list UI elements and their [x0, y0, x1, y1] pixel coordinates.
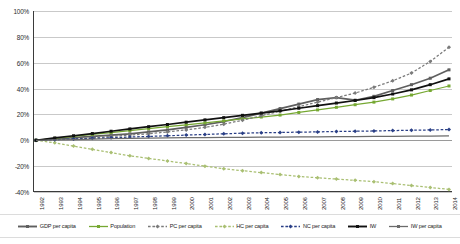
- legend-item-label: NC per capita: [303, 223, 335, 229]
- x-axis-tick-label: 2013: [432, 197, 439, 210]
- x-axis-tick-label: 1999: [170, 197, 177, 210]
- legend-swatch-icon: [148, 223, 167, 230]
- x-axis-tick-label: 2001: [207, 197, 214, 210]
- x-axis-tick-label: 1993: [57, 197, 64, 210]
- x-axis-tick-label: 2008: [339, 197, 346, 210]
- legend-swatch-icon: [89, 223, 108, 230]
- x-axis-tick-label: 1995: [95, 197, 102, 210]
- legend-item-gdp-per-capita[interactable]: GDP per capita: [18, 223, 76, 230]
- x-axis-tick-label: 2002: [226, 197, 233, 210]
- legend-item-iw[interactable]: IW: [348, 223, 376, 230]
- x-axis-tick-label: 1992: [38, 197, 45, 210]
- x-axis-tick-label: 1998: [151, 197, 158, 210]
- x-axis-tick-label: 2009: [357, 197, 364, 210]
- x-axis-tick-label: 2003: [245, 197, 252, 210]
- x-axis-tick-label: 1996: [113, 197, 120, 210]
- legend-item-label: HC per capita: [236, 223, 268, 229]
- x-axis-tick-label: 2012: [414, 197, 421, 210]
- legend-swatch-icon: [281, 223, 300, 230]
- legend-item-nc-per-capita[interactable]: NC per capita: [281, 223, 335, 230]
- x-axis-tick-label: 2011: [395, 198, 402, 210]
- legend-item-pc-per-capita[interactable]: PC per capita: [148, 223, 201, 230]
- legend-item-label: PC per capita: [170, 223, 202, 229]
- legend-item-label: Population: [110, 223, 135, 229]
- legend-item-label: GDP per capita: [40, 223, 76, 229]
- legend-swatch-icon: [215, 223, 234, 230]
- legend-swatch-icon: [348, 223, 367, 230]
- legend-swatch-icon: [389, 223, 408, 230]
- x-axis-tick-label: 2014: [451, 197, 458, 210]
- chart-container: 100%80%60%40%20%0%-20%-40% 1992199319941…: [0, 0, 460, 244]
- x-axis-tick-label: 2010: [376, 197, 383, 210]
- legend-swatch-icon: [18, 223, 37, 230]
- legend-item-population[interactable]: Population: [89, 223, 135, 230]
- x-axis-tick-label: 2005: [282, 197, 289, 210]
- chart-legend: GDP per capitaPopulationPC per capitaHC …: [0, 214, 460, 238]
- legend-item-iw-per-capita[interactable]: IW per capita: [389, 223, 442, 230]
- legend-item-label: IW: [370, 223, 377, 229]
- legend-item-hc-per-capita[interactable]: HC per capita: [215, 223, 269, 230]
- x-axis-tick-label: 1997: [132, 197, 139, 210]
- x-axis: 1992199319941995199619971998199920002001…: [0, 0, 460, 244]
- x-axis-tick-label: 1994: [76, 197, 83, 210]
- x-axis-tick-label: 2006: [301, 197, 308, 210]
- x-axis-tick-label: 2000: [188, 197, 195, 210]
- legend-item-label: IW per capita: [411, 223, 442, 229]
- x-axis-tick-label: 2007: [320, 197, 327, 210]
- x-axis-tick-label: 2004: [263, 197, 270, 210]
